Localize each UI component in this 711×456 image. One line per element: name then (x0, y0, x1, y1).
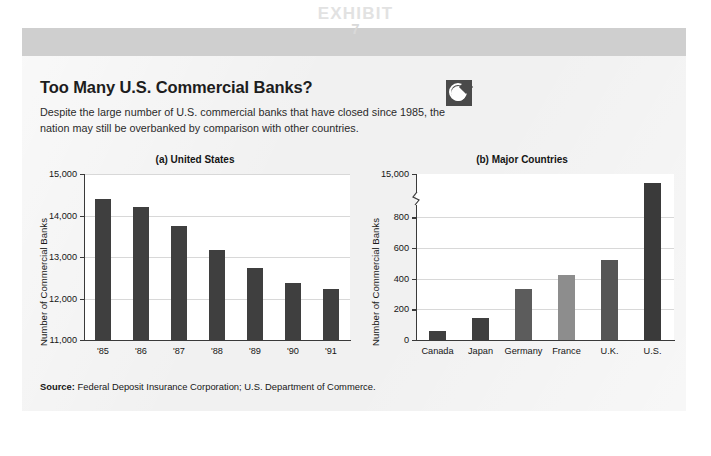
x-tick-label: '89 (236, 346, 274, 356)
chart-panel-us: (a) United States Number of Commercial B… (30, 154, 360, 369)
bar (209, 250, 225, 340)
x-tick-label: '90 (274, 346, 312, 356)
gridline (416, 279, 674, 280)
globe-icon (446, 80, 472, 106)
chart-panel-countries: (b) Major Countries Number of Commercial… (362, 154, 682, 369)
x-axis-line (84, 340, 351, 341)
y-tick-label: 400 (369, 274, 409, 284)
y-axis-line (84, 174, 85, 341)
gridline (416, 217, 674, 218)
gridline (416, 248, 674, 249)
bar (95, 199, 111, 340)
gridline (416, 309, 674, 310)
x-tick-label: Japan (459, 346, 502, 356)
x-axis-line (416, 340, 675, 341)
y-tick-label: 12,000 (37, 294, 77, 304)
bar (472, 318, 488, 340)
bar (515, 289, 531, 340)
exhibit-page: EXHIBIT 7 Too Many U.S. Commercial Banks… (0, 0, 711, 456)
y-axis-line-lower (416, 205, 417, 341)
source-note: Source: Federal Deposit Insurance Corpor… (40, 381, 376, 392)
exhibit-header: EXHIBIT 7 (0, 6, 711, 30)
gridline (84, 174, 350, 175)
bar (429, 331, 445, 341)
bar (133, 207, 149, 340)
x-tick-label: '85 (84, 346, 122, 356)
x-tick-label: '91 (312, 346, 350, 356)
y-tick-label: 0 (369, 335, 409, 345)
y-tick-label-top: 15,000 (369, 169, 409, 179)
bar (171, 226, 187, 340)
x-tick-label: Germany (502, 346, 545, 356)
x-tick-label: Canada (416, 346, 459, 356)
bar (285, 283, 301, 340)
bar (601, 260, 617, 340)
y-tick-label: 200 (369, 304, 409, 314)
chart-b-title: (b) Major Countries (362, 154, 682, 165)
bar (558, 275, 574, 340)
bar (323, 289, 339, 340)
chart-a-title: (a) United States (30, 154, 360, 165)
exhibit-word: EXHIBIT (0, 6, 711, 21)
axis-break-icon (410, 192, 422, 206)
y-tick-label: 600 (369, 243, 409, 253)
chart-b-plot-area (416, 174, 674, 340)
y-tick-label: 15,000 (37, 169, 77, 179)
chart-a-y-axis-label: Number of Commercial Banks (38, 218, 49, 346)
bar (247, 268, 263, 340)
x-tick-label: '88 (198, 346, 236, 356)
x-tick-label: U.K. (588, 346, 631, 356)
gridline (84, 216, 350, 217)
exhibit-card: Too Many U.S. Commercial Banks? Despite … (22, 56, 686, 411)
y-tick-label: 11,000 (37, 335, 77, 345)
y-tick-label: 13,000 (37, 252, 77, 262)
x-tick-label: '87 (160, 346, 198, 356)
y-tick-label: 14,000 (37, 211, 77, 221)
x-tick-label: '86 (122, 346, 160, 356)
x-tick-label: France (545, 346, 588, 356)
exhibit-number: 7 (0, 22, 711, 36)
source-label: Source: (40, 381, 75, 392)
x-tick-label: U.S. (631, 346, 674, 356)
source-text: Federal Deposit Insurance Corporation; U… (75, 381, 376, 392)
y-tick-label: 800 (369, 212, 409, 222)
page-title: Too Many U.S. Commercial Banks? (40, 78, 313, 97)
page-subtitle: Despite the large number of U.S. commerc… (40, 104, 460, 136)
bar (644, 183, 660, 340)
y-axis-line-upper (416, 174, 417, 193)
chart-a-plot-area (84, 174, 350, 340)
